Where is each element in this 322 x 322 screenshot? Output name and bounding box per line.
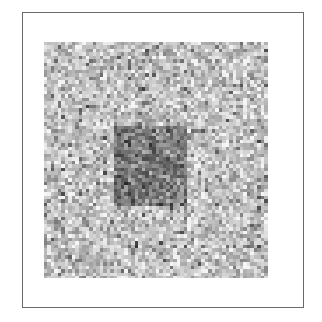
noise-texture-image [44,42,268,278]
